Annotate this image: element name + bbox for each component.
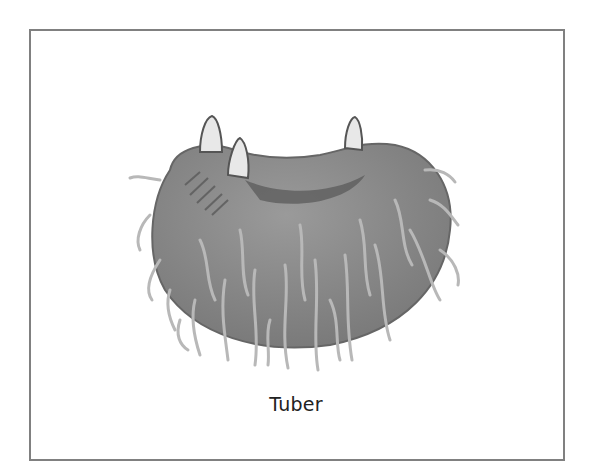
figure-caption: Tuber xyxy=(0,393,592,415)
